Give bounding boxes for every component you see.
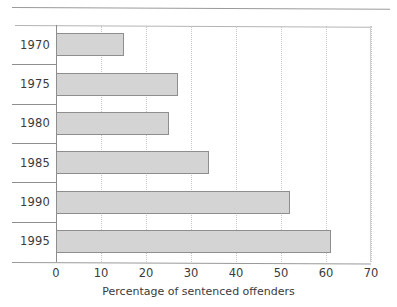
x-tick-label-20: 20 bbox=[126, 266, 166, 280]
gridline-10 bbox=[101, 26, 102, 262]
bar-1970 bbox=[56, 33, 124, 56]
y-axis-line bbox=[56, 25, 57, 262]
bar-1985 bbox=[56, 151, 209, 174]
category-tick-1975 bbox=[12, 64, 56, 65]
bar-chart-figure: 197019751980198519901995 010203040506070… bbox=[0, 0, 397, 307]
y-tick-label-1995: 1995 bbox=[0, 234, 50, 248]
x-tick-label-70: 70 bbox=[351, 266, 391, 280]
plot-frame-top-border bbox=[15, 25, 371, 28]
x-tick-label-0: 0 bbox=[36, 266, 76, 280]
y-tick-label-1980: 1980 bbox=[0, 116, 50, 130]
gridline-50 bbox=[281, 26, 282, 262]
category-tick-1985 bbox=[12, 143, 56, 144]
bar-1975 bbox=[56, 73, 178, 96]
x-axis-title: Percentage of sentenced offenders bbox=[0, 285, 397, 298]
gridline-30 bbox=[191, 26, 192, 262]
gridline-40 bbox=[236, 26, 237, 262]
y-tick-label-1975: 1975 bbox=[0, 77, 50, 91]
bar-1980 bbox=[56, 112, 169, 135]
category-tick-1990 bbox=[12, 182, 56, 183]
x-tick-label-50: 50 bbox=[261, 266, 301, 280]
y-tick-label-1970: 1970 bbox=[0, 38, 50, 52]
gridline-20 bbox=[146, 26, 147, 262]
x-tick-label-40: 40 bbox=[216, 266, 256, 280]
y-tick-label-1985: 1985 bbox=[0, 156, 50, 170]
category-tick-1980 bbox=[12, 104, 56, 105]
bar-1995 bbox=[56, 230, 331, 253]
bar-1990 bbox=[56, 191, 290, 214]
plot-area bbox=[56, 25, 371, 261]
gridline-60 bbox=[326, 26, 327, 262]
category-tick-1995 bbox=[12, 222, 56, 223]
y-tick-label-1990: 1990 bbox=[0, 195, 50, 209]
x-tick-label-60: 60 bbox=[306, 266, 346, 280]
x-tick-label-30: 30 bbox=[171, 266, 211, 280]
x-axis-line bbox=[12, 262, 371, 265]
x-tick-label-10: 10 bbox=[81, 266, 121, 280]
gridline-70 bbox=[371, 26, 372, 262]
